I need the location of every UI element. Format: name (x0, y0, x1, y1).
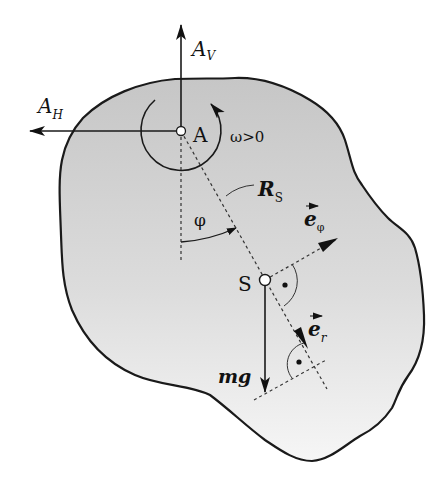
center-of-mass-point (260, 275, 271, 286)
label-phi: φ (194, 210, 206, 230)
right-angle-dot-lower (296, 359, 301, 364)
label-mg: mg (218, 365, 251, 387)
label-ah: AH (36, 94, 63, 122)
label-pivot-a: A (192, 123, 208, 147)
label-s: S (238, 272, 252, 296)
pivot-a-point (177, 127, 186, 136)
label-av: AV (190, 37, 216, 63)
label-omega: ω>0 (230, 128, 264, 146)
right-angle-dot-s (282, 282, 287, 287)
pendulum-diagram: AV AH A ω>0 RS φ eφ S er mg (0, 0, 442, 483)
